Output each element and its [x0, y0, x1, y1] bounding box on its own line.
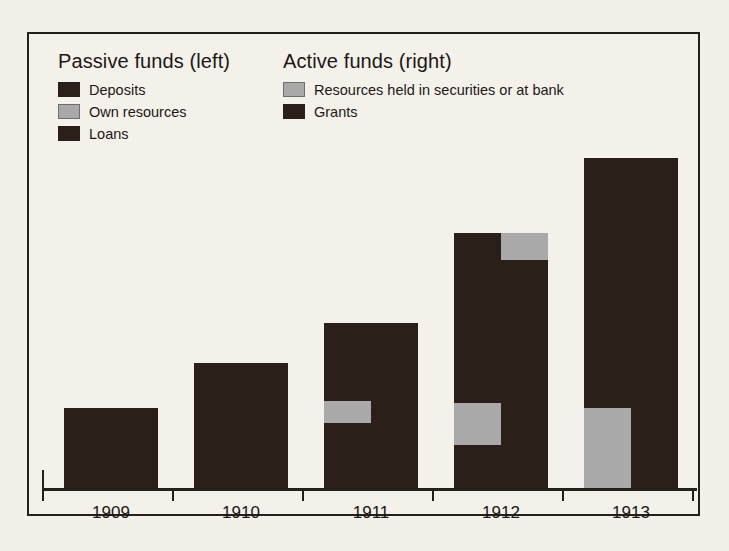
legend-swatch-loans	[58, 126, 80, 141]
legend-passive-title: Passive funds (left)	[58, 50, 230, 73]
chart-figure: Passive funds (left) Deposits Own resour…	[0, 0, 729, 551]
legend-label-resources-held: Resources held in securities or at bank	[314, 82, 564, 98]
legend-item-loans[interactable]: Loans	[58, 124, 230, 143]
legend-active-funds: Active funds (right) Resources held in s…	[283, 50, 564, 124]
legend-label-grants: Grants	[314, 104, 358, 120]
legend-active-title: Active funds (right)	[283, 50, 564, 73]
legend-label-loans: Loans	[89, 126, 129, 142]
legend-item-resources-held[interactable]: Resources held in securities or at bank	[283, 80, 564, 99]
legend-swatch-grants	[283, 104, 305, 119]
legend-swatch-own-resources	[58, 104, 80, 119]
legend-swatch-deposits	[58, 82, 80, 97]
legend-item-own-resources[interactable]: Own resources	[58, 102, 230, 121]
legend-item-deposits[interactable]: Deposits	[58, 80, 230, 99]
legend-label-deposits: Deposits	[89, 82, 145, 98]
legend-swatch-resources-held	[283, 82, 305, 97]
legend-passive-funds: Passive funds (left) Deposits Own resour…	[58, 50, 230, 146]
legend-label-own-resources: Own resources	[89, 104, 187, 120]
legend-item-grants[interactable]: Grants	[283, 102, 564, 121]
